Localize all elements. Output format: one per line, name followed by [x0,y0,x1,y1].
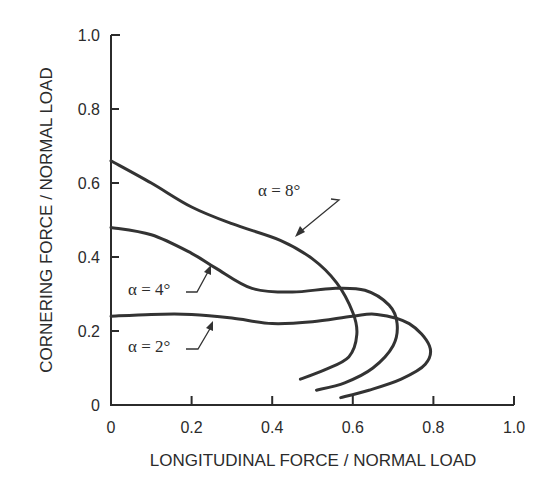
axes [110,35,514,405]
y-ticks: 00.20.40.60.81.0 [78,27,119,414]
friction-circle-chart: 00.20.40.60.81.0 00.20.40.60.81.0 LONGIT… [0,0,548,491]
arrow-head-icon [295,226,305,237]
x-tick-label: 0.4 [261,419,283,436]
y-tick-label: 1.0 [78,27,100,44]
x-tick-label: 0.6 [342,419,364,436]
y-tick-label: 0.4 [78,249,100,266]
x-tick-label: 0.2 [180,419,202,436]
annotation-label-alpha-8: α = 8° [258,181,300,200]
x-ticks: 00.20.40.60.81.0 [107,396,526,436]
x-axis-label: LONGITUDINAL FORCE / NORMAL LOAD [150,451,477,470]
arrow-head-icon [206,321,213,331]
y-axis-label: CORNERING FORCE / NORMAL LOAD [37,67,56,372]
leader-line-alpha-4 [186,270,209,292]
y-tick-label: 0.8 [78,101,100,118]
leader-line-alpha-8 [300,199,339,232]
y-tick-label: 0 [91,397,100,414]
annotation-label-alpha-2: α = 2° [128,337,170,356]
curve-alpha-4-deg [111,227,397,390]
x-tick-label: 0.8 [422,419,444,436]
leader-line-alpha-2 [186,327,211,349]
x-tick-label: 1.0 [503,419,525,436]
annotation-alpha-4: α = 4° [128,265,211,299]
annotation-label-alpha-4: α = 4° [128,280,170,299]
arrow-head-icon [204,265,211,275]
annotation-alpha-8: α = 8° [258,181,339,237]
y-tick-label: 0.2 [78,323,100,340]
annotation-alpha-2: α = 2° [128,321,213,356]
y-tick-label: 0.6 [78,175,100,192]
x-tick-label: 0 [107,419,116,436]
